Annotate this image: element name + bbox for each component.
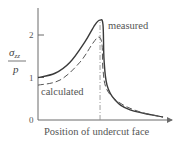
stress-distribution-chart: 012 σzz p measured calculated Position o… bbox=[0, 0, 181, 144]
y-axis-label: σzz p bbox=[8, 46, 26, 75]
x-axis-label: Position of undercut face bbox=[44, 126, 150, 137]
series-line-measured bbox=[38, 20, 163, 117]
y-label-numerator: σzz bbox=[9, 46, 20, 60]
y-tick-label: 2 bbox=[29, 30, 34, 40]
series-line-calculated bbox=[38, 37, 163, 117]
series-label-calculated: calculated bbox=[41, 86, 84, 97]
y-tick-label: 1 bbox=[29, 73, 34, 83]
y-label-denominator: p bbox=[12, 63, 19, 75]
series-label-measured: measured bbox=[108, 20, 149, 31]
series-group bbox=[38, 20, 163, 117]
y-tick-label: 0 bbox=[29, 115, 34, 125]
